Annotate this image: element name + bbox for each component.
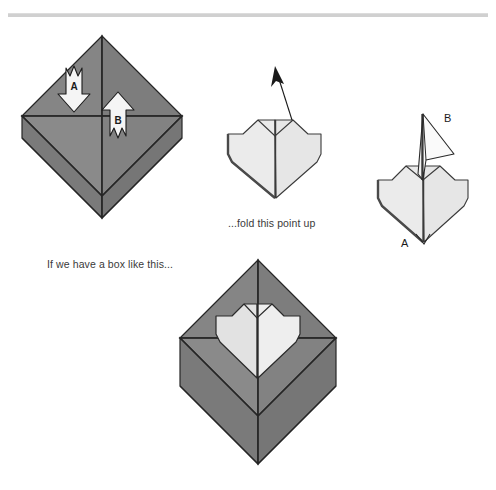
heart-folded-half-left (378, 166, 423, 242)
box-face-upper-left (22, 36, 102, 116)
arrow-a-label: A (70, 81, 77, 92)
heart-half-left (228, 120, 275, 198)
header-rule (8, 13, 488, 17)
diagram-page: A B If we have a box like this... ...fol… (0, 0, 496, 490)
figure-origami-box-with-heart (168, 252, 348, 477)
figure-origami-heart-flat (218, 62, 348, 212)
arrow-fold-up (271, 66, 292, 120)
heart-folded-half-right (423, 166, 468, 242)
figure-origami-heart-point-folded: B A (368, 100, 493, 250)
caption-box-start: If we have a box like this... (47, 258, 173, 270)
label-point-b: B (444, 112, 451, 124)
heart-half-right (275, 120, 321, 198)
label-point-a: A (401, 237, 409, 249)
arrow-fold-up-shaft (278, 76, 292, 120)
caption-fold-point: ...fold this point up (228, 217, 315, 229)
arrow-fold-up-head (271, 66, 284, 87)
figure-origami-box-diamond: A B (14, 28, 214, 228)
arrow-b-label: B (114, 115, 121, 126)
